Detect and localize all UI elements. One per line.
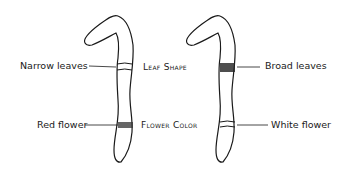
right-chromosome	[186, 15, 235, 162]
right-chromosome-band-upper	[220, 63, 235, 72]
trait-flower-color: Flower Color	[141, 120, 197, 130]
label-broad-leaves: Broad leaves	[265, 61, 327, 71]
label-narrow-leaves: Narrow leaves	[20, 61, 88, 71]
label-red-flower: Red flower	[37, 120, 87, 130]
left-chromosome-band-lower	[118, 122, 133, 128]
chromosome-diagram	[0, 0, 345, 171]
left-chromosome	[84, 15, 133, 162]
leader-line-narrow-leaves	[89, 66, 116, 67]
label-white-flower: White flower	[271, 120, 331, 130]
trait-leaf-shape: Leaf Shape	[143, 62, 187, 72]
